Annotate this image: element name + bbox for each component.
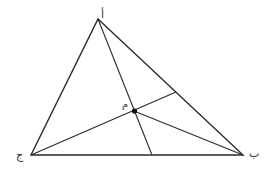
point-m (132, 108, 137, 113)
vertex-label-b: ب (249, 148, 259, 159)
triangle-diagram (0, 0, 272, 171)
vertex-label-c: ج (16, 150, 23, 161)
cevian-from-b (134, 111, 243, 155)
cevian-from-c (31, 92, 176, 155)
vertex-label-a: أ (101, 9, 104, 20)
point-label-m: م (122, 100, 128, 110)
cevian-from-a (98, 19, 152, 155)
triangle-abc (31, 19, 243, 155)
